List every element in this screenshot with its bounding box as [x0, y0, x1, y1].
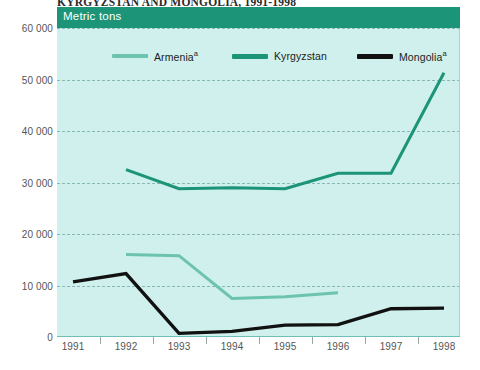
legend-swatch-mongolia [357, 54, 393, 59]
chart-figure: KYRGYZSTAN AND MONGOLIA, 1991-1998 Metri… [0, 0, 480, 370]
x-axis-tick-label: 1994 [207, 341, 257, 352]
x-axis-tick-label: 1992 [101, 341, 151, 352]
y-axis-labels: 010 00020 00030 00040 00050 00060 000 [0, 28, 53, 337]
y-axis-tick-label: 20 000 [0, 229, 53, 240]
x-axis-tick-label: 1991 [48, 341, 98, 352]
legend-footnote-marker: a [194, 49, 198, 58]
plot-area [57, 28, 460, 337]
legend-item-kyrgyzstan[interactable]: Kyrgyzstan [232, 48, 327, 64]
y-axis-tick-label: 50 000 [0, 74, 53, 85]
series-line-armenia [126, 255, 338, 299]
legend-item-mongolia[interactable]: Mongoliaa [357, 48, 447, 64]
x-axis-tick-label: 1996 [313, 341, 363, 352]
legend-label-kyrgyzstan: Kyrgyzstan [274, 50, 327, 62]
legend-swatch-kyrgyzstan [232, 54, 268, 59]
chart-legend: ArmeniaaKyrgyzstanMongoliaa [57, 48, 460, 64]
legend-item-armenia[interactable]: Armeniaa [112, 48, 198, 64]
legend-label-mongolia: Mongoliaa [399, 49, 447, 63]
series-lines [57, 28, 460, 337]
x-axis-tick-label: 1997 [366, 341, 416, 352]
legend-footnote-marker: a [442, 49, 446, 58]
unit-header-band: Metric tons [57, 7, 460, 28]
y-axis-tick-label: 60 000 [0, 23, 53, 34]
y-axis-tick-label: 10 000 [0, 280, 53, 291]
x-axis-tick-label: 1993 [154, 341, 204, 352]
legend-label-armenia: Armeniaa [154, 49, 198, 63]
y-axis-tick-label: 0 [0, 332, 53, 343]
series-line-mongolia [73, 274, 444, 334]
legend-swatch-armenia [112, 54, 148, 58]
plot-right-border [459, 28, 460, 337]
x-axis-tick-label: 1998 [419, 341, 469, 352]
x-axis-labels: 19911992199319941995199619971998 [57, 341, 460, 361]
series-line-kyrgyzstan [126, 73, 444, 189]
x-axis-tick-label: 1995 [260, 341, 310, 352]
y-axis-tick-label: 30 000 [0, 177, 53, 188]
y-axis-tick-label: 40 000 [0, 126, 53, 137]
unit-label: Metric tons [63, 10, 121, 22]
